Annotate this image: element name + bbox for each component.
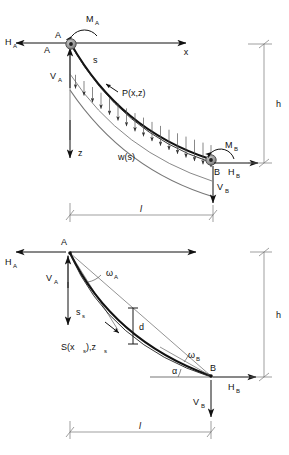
distributed-load-label: w(s)	[117, 152, 135, 162]
point-function-part2: ),z	[86, 342, 96, 352]
node-b-marker-lower	[209, 374, 213, 378]
va-label-sub-lower: A	[54, 279, 58, 285]
sag-label: d	[139, 322, 144, 332]
ha-label-main: H	[5, 37, 12, 47]
load-lower-boundary	[70, 90, 214, 197]
sag-dimension-d	[128, 308, 138, 344]
hb-label-upper: H B	[228, 167, 240, 179]
support-b-pin	[206, 155, 216, 165]
ma-label-sub: A	[95, 20, 99, 26]
z-axis-label: z	[78, 148, 83, 158]
hb-label-sub-lower: B	[236, 388, 240, 394]
point-function-label-lower: S(x s ),z s	[61, 342, 107, 354]
node-b-letter-lower: B	[210, 363, 216, 373]
figure-root: A A A H A M A V A x z s P(x,z) w(s) B	[0, 0, 289, 455]
hb-label-main-lower: H	[228, 382, 235, 392]
upper-diagram-group: A A A H A M A V A x z s P(x,z) w(s) B	[5, 14, 281, 222]
cable-curve	[71, 44, 210, 159]
mb-label-main: M	[225, 140, 233, 150]
vb-label-upper: V B	[217, 182, 229, 194]
node-a-letter-upper: A	[55, 30, 61, 40]
s-point-pointer-lower	[105, 322, 119, 333]
ha-label-sub-lower: A	[13, 263, 17, 269]
node-a-marker-lower	[68, 251, 72, 255]
hb-label-main: H	[228, 167, 235, 177]
point-function-part1: S(x	[61, 342, 75, 352]
omega-a-sub: A	[114, 274, 118, 280]
omega-a-label: ω A	[106, 268, 118, 280]
omega-a-main: ω	[106, 268, 113, 278]
height-label-lower: h	[276, 310, 281, 320]
omega-b-label: ω B	[188, 350, 200, 362]
ha-label-main-lower: H	[5, 257, 12, 267]
arc-length-label-upper: s	[93, 55, 98, 65]
support-a-pin	[66, 39, 76, 49]
va-label-sub: A	[58, 77, 62, 83]
va-label-main-lower: V	[46, 273, 52, 283]
height-label-upper: h	[276, 99, 281, 109]
span-label-upper: l	[140, 204, 143, 214]
point-function-sub2: s	[104, 348, 107, 354]
vb-label-lower: V B	[193, 397, 205, 409]
point-function-label-upper: P(x,z)	[122, 88, 146, 98]
va-label-main: V	[50, 71, 56, 81]
ma-label-upper: M A	[86, 14, 99, 26]
span-label-lower: l	[139, 421, 142, 431]
height-dimension-upper	[248, 40, 272, 167]
alpha-label: α	[172, 366, 177, 376]
node-a-letter-lower: A	[61, 237, 67, 247]
vb-label-main: V	[217, 182, 223, 192]
arc-length-label-lower: s s	[76, 307, 85, 319]
mb-label-sub: B	[234, 146, 238, 152]
hb-label-lower: H B	[228, 382, 240, 394]
vb-label-main-lower: V	[193, 397, 199, 407]
tangent-b-line	[160, 347, 211, 376]
x-axis-label: x	[184, 47, 189, 57]
omega-b-sub: B	[196, 356, 200, 362]
label-a-upper: A	[44, 45, 50, 55]
ha-label-lower: H A	[5, 257, 17, 269]
ha-label-sub: A	[13, 43, 17, 49]
omega-b-main: ω	[188, 350, 195, 360]
height-dimension-lower	[250, 248, 272, 381]
ha-label-upper: H A	[5, 37, 17, 49]
hb-label-sub: B	[236, 173, 240, 179]
engineering-diagram-svg: A A A H A M A V A x z s P(x,z) w(s) B	[0, 0, 289, 455]
arc-length-sub-lower: s	[82, 313, 85, 319]
node-b-letter-upper: B	[214, 167, 220, 177]
vb-label-sub-lower: B	[201, 403, 205, 409]
va-label-upper: V A	[50, 71, 62, 83]
alpha-arc	[178, 369, 181, 377]
lower-diagram-group: A H A V A ω A s s S(x s ),z s d	[5, 237, 281, 439]
vb-label-sub: B	[225, 188, 229, 194]
p-point-pointer	[106, 84, 118, 92]
va-label-lower: V A	[46, 273, 58, 285]
arc-length-main-lower: s	[76, 307, 81, 317]
ma-label-main: M	[86, 14, 94, 24]
ma-moment-arc	[72, 30, 97, 36]
